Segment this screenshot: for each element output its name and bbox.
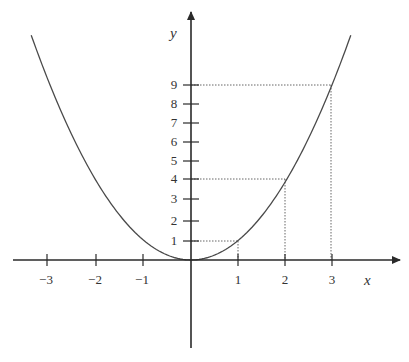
- y-tick-label: 2: [171, 213, 178, 228]
- projection-lines: [191, 85, 331, 260]
- x-tick-label: −3: [39, 272, 53, 287]
- x-tick-label: 1: [235, 272, 242, 287]
- parabola-chart: −3 −2 −1 1 2 3 x 1 2 3 4 5 6 7 8 9 y: [0, 0, 409, 362]
- y-tick-labels: 1 2 3 4 5 6 7 8 9: [171, 77, 178, 248]
- y-tick-label: 9: [171, 77, 178, 92]
- x-tick-label: 3: [329, 272, 336, 287]
- x-tick-label: 2: [282, 272, 289, 287]
- x-tick-label: −1: [135, 272, 149, 287]
- y-tick-label: 3: [171, 191, 178, 206]
- y-tick-label: 4: [171, 171, 178, 186]
- y-tick-label: 1: [171, 233, 178, 248]
- y-axis-label: y: [168, 25, 177, 41]
- y-tick-label: 8: [171, 96, 178, 111]
- x-tick-labels: −3 −2 −1 1 2 3: [39, 272, 335, 287]
- y-tick-label: 6: [171, 134, 178, 149]
- x-axis-label: x: [363, 272, 371, 288]
- x-tick-label: −2: [88, 272, 102, 287]
- y-tick-label: 5: [171, 153, 178, 168]
- y-tick-label: 7: [171, 115, 178, 130]
